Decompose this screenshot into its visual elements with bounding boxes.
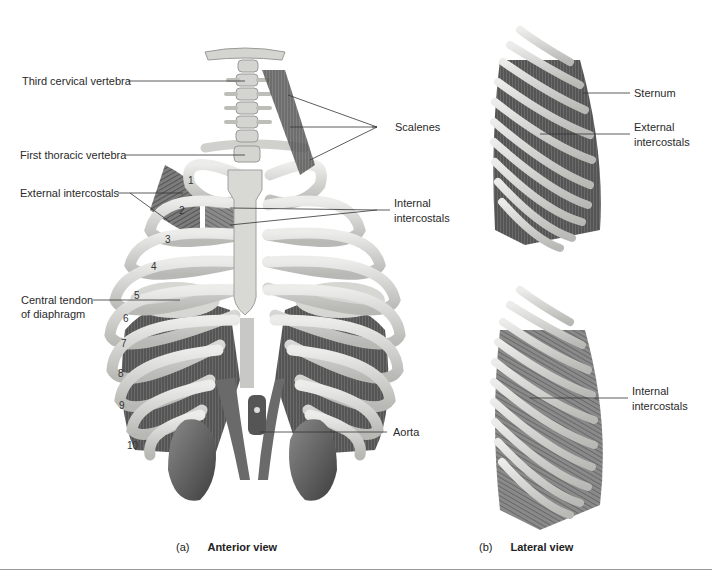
label-first-thoracic-vertebra: First thoracic vertebra bbox=[20, 149, 126, 162]
label-internal-intercostals-anterior-2: intercostals bbox=[394, 212, 450, 225]
rib-number-5: 5 bbox=[134, 290, 140, 301]
caption-anterior-letter: (a) bbox=[176, 541, 189, 553]
rib-number-4: 4 bbox=[151, 261, 157, 272]
label-third-cervical-vertebra: Third cervical vertebra bbox=[22, 75, 131, 88]
lateral-ribcage-internal bbox=[494, 290, 603, 530]
label-scalenes: Scalenes bbox=[395, 121, 440, 134]
rib-number-3: 3 bbox=[165, 234, 171, 245]
caption-lateral-letter: (b) bbox=[479, 541, 492, 553]
rib-number-6: 6 bbox=[123, 313, 129, 324]
lateral-ribcage-external bbox=[493, 30, 600, 248]
rib-number-9: 9 bbox=[119, 400, 125, 411]
anterior-ribcage bbox=[110, 48, 400, 501]
label-central-tendon: Central tendon bbox=[21, 294, 93, 307]
label-external-intercostals-lateral-2: intercostals bbox=[634, 136, 690, 149]
label-internal-intercostals-anterior-1: Internal bbox=[394, 197, 431, 210]
caption-lateral-title: Lateral view bbox=[510, 541, 573, 553]
label-external-intercostals-lateral-1: External bbox=[634, 121, 674, 134]
label-external-intercostals-anterior: External intercostals bbox=[20, 187, 119, 200]
caption-anterior-title: Anterior view bbox=[207, 541, 277, 553]
label-internal-intercostals-lateral-2: intercostals bbox=[632, 400, 688, 413]
label-internal-intercostals-lateral-1: Internal bbox=[632, 385, 669, 398]
rib-number-8: 8 bbox=[118, 368, 124, 379]
rib-number-2: 2 bbox=[179, 205, 185, 216]
caption-lateral: (b)Lateral view bbox=[479, 541, 573, 553]
rib-number-10: 10 bbox=[127, 440, 138, 451]
label-aorta: Aorta bbox=[393, 426, 419, 439]
caption-anterior: (a)Anterior view bbox=[176, 541, 277, 553]
rib-number-7: 7 bbox=[121, 338, 127, 349]
rib-number-1: 1 bbox=[188, 175, 194, 186]
bottom-divider bbox=[0, 569, 712, 570]
label-sternum: Sternum bbox=[634, 87, 676, 100]
label-of-diaphragm: of diaphragm bbox=[21, 308, 85, 321]
